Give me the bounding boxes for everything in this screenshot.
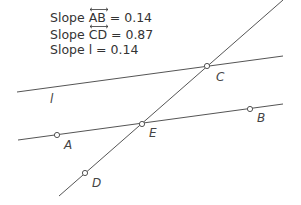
label-c: C <box>216 71 224 83</box>
double-arrow-icon <box>89 7 109 12</box>
slope-cd-text: Slope CD = 0.87 <box>50 29 153 42</box>
label-b: B <box>257 112 265 124</box>
point-e <box>139 121 144 126</box>
label-a: A <box>64 139 72 151</box>
slope-value: = 0.14 <box>92 42 138 57</box>
double-arrow-icon <box>89 24 109 29</box>
slope-ab-text: Slope AB = 0.14 <box>50 12 152 25</box>
slope-l-text: Slope l = 0.14 <box>50 44 138 57</box>
slope-value: = 0.87 <box>107 27 153 42</box>
line-l <box>17 56 283 92</box>
point-a <box>54 132 59 137</box>
diagram: Slope AB = 0.14 Slope CD = 0.87 Slope l … <box>0 0 301 205</box>
slope-prefix: Slope <box>50 42 89 57</box>
label-e: E <box>149 127 157 139</box>
label-d: D <box>92 177 101 189</box>
label-l: l <box>50 93 53 105</box>
point-b <box>247 106 252 111</box>
line-notation-ab: AB <box>89 12 106 25</box>
line-notation-cd: CD <box>89 29 107 42</box>
slope-value: = 0.14 <box>106 10 152 25</box>
slope-prefix: Slope <box>50 27 89 42</box>
point-c <box>204 63 209 68</box>
slope-prefix: Slope <box>50 10 89 25</box>
point-d <box>82 170 87 175</box>
